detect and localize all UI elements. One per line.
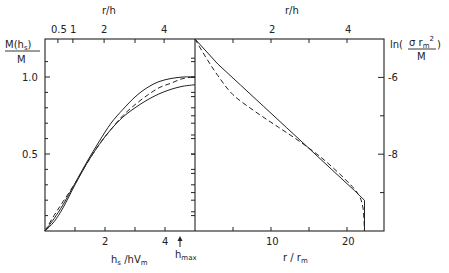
left-xlabel: hs /hVm [111,254,148,267]
data-curves [45,39,365,231]
right-ylabel-denominator: M [417,51,426,62]
left-ytick-label-05: 0.5 [22,149,38,160]
right-ytick-label-8: -8 [388,149,398,160]
right-curve-dashed [195,39,365,231]
right-xtick-label-20: 20 [342,236,355,247]
top-tick-label-4: 4 [161,24,167,35]
top-left-axis-title: r/h [102,5,116,16]
hmax-annotation: hmax [175,236,197,262]
top-tick-label-1: 1 [70,24,76,35]
left-ytick-label-1: 1.0 [22,72,38,83]
left-ylabel-numerator: M(hs) [5,39,32,52]
left-curve-dashed [45,77,195,231]
left-xtick-label-2: 2 [102,236,108,247]
left-xtick-label-4: 4 [162,236,168,247]
right-ylabel-ln: ln( [390,39,403,50]
axes-frame [45,39,384,231]
top-right-tick-label-4: 4 [345,24,351,35]
left-curve-solid-upper [45,77,195,231]
left-curve-solid-lower [45,85,195,231]
top-right-tick-label-2: 2 [269,24,275,35]
right-curve-solid [195,39,365,231]
right-ylabel-close: ) [437,39,441,50]
top-tick-label-05: 0.5 [51,24,67,35]
right-xtick-label-10: 10 [266,236,279,247]
chart-svg: M(hs) M 1.0 0.5 r/h 0.5 1 2 4 2 4 hs /hV… [0,0,449,273]
top-right-axis-title: r/h [285,5,299,16]
right-xlabel: r / rm [283,252,308,265]
tick-marks [45,39,384,231]
left-ylabel-denominator: M [17,54,26,65]
top-tick-label-2: 2 [101,24,107,35]
svg-text:hmax: hmax [175,249,197,262]
right-ylabel-numerator: σ rm2 [409,35,434,50]
right-ytick-label-6: -6 [388,72,398,83]
figure: M(hs) M 1.0 0.5 r/h 0.5 1 2 4 2 4 hs /hV… [0,0,449,273]
